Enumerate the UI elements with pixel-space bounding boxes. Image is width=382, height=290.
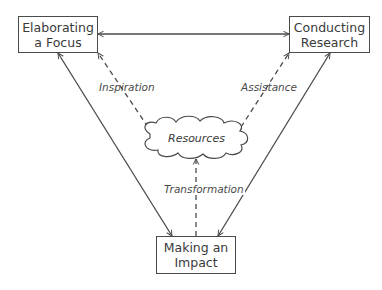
node-impact-line1: Making an — [164, 240, 229, 255]
node-resources-label: Resources — [168, 132, 225, 145]
node-elaborating-a-focus: Elaborating a Focus — [18, 16, 98, 53]
node-conducting-research: Conducting Research — [289, 16, 370, 53]
research-cycle-diagram: Elaborating a Focus Conducting Research … — [0, 0, 382, 290]
node-research-line1: Conducting — [294, 20, 365, 35]
edge-label-inspiration: Inspiration — [99, 81, 155, 93]
node-impact-line2: Impact — [164, 255, 229, 270]
edge-label-transformation: Transformation — [163, 183, 245, 195]
node-research-line2: Research — [294, 35, 365, 50]
edge-label-assistance: Assistance — [241, 81, 297, 93]
node-focus-line1: Elaborating — [22, 20, 94, 35]
node-making-an-impact: Making an Impact — [156, 236, 236, 274]
node-focus-line2: a Focus — [22, 35, 94, 50]
